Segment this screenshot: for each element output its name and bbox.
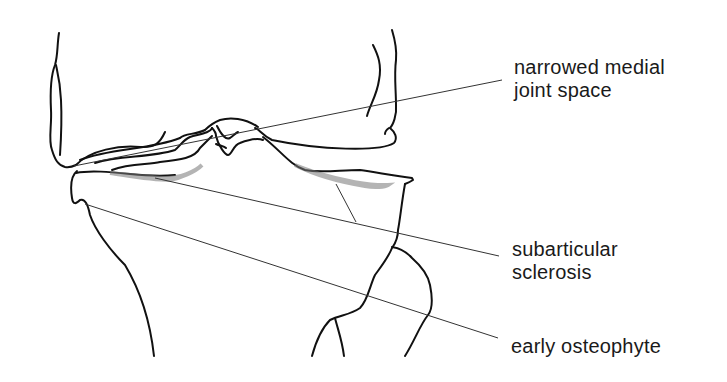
leader-sclerosis-branch bbox=[336, 184, 356, 222]
femur-condyle-notch bbox=[385, 128, 389, 134]
label-line: narrowed medial bbox=[514, 56, 665, 79]
label-subarticular-sclerosis: subarticular sclerosis bbox=[512, 238, 618, 284]
label-line: early osteophyte bbox=[511, 335, 661, 358]
label-line: joint space bbox=[514, 79, 665, 102]
fibula bbox=[392, 247, 432, 356]
label-early-osteophyte: early osteophyte bbox=[511, 335, 661, 358]
leader-lines bbox=[74, 80, 502, 338]
sclerosis-stipple bbox=[110, 165, 388, 187]
femur-articular-surface bbox=[76, 132, 165, 165]
label-narrowed-medial-joint-space: narrowed medial joint space bbox=[514, 56, 665, 102]
label-line: sclerosis bbox=[512, 261, 618, 284]
leader-subarticular-sclerosis bbox=[155, 178, 499, 256]
tibia-lateral-edge bbox=[312, 184, 405, 356]
femur-medial-edge bbox=[50, 33, 76, 167]
femur-medial-inner bbox=[56, 65, 61, 155]
fibula-inner bbox=[335, 318, 344, 356]
bone-outlines bbox=[50, 30, 432, 356]
tibia-medial-edge bbox=[71, 171, 154, 356]
label-line: subarticular bbox=[512, 238, 618, 261]
leader-narrowed-joint-space bbox=[74, 80, 502, 166]
